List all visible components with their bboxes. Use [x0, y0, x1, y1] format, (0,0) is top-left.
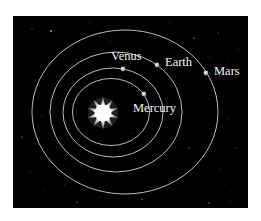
- label-mars: Mars: [214, 64, 240, 78]
- planet-mars: [204, 71, 209, 76]
- space-background: [13, 16, 248, 208]
- solar-system-diagram: MercuryVenusEarthMars: [0, 0, 261, 221]
- planet-mercury: [142, 92, 147, 97]
- label-mercury: Mercury: [133, 101, 177, 115]
- label-venus: Venus: [111, 49, 142, 63]
- planet-earth: [155, 63, 160, 68]
- label-earth: Earth: [165, 55, 193, 69]
- planet-venus: [121, 67, 126, 72]
